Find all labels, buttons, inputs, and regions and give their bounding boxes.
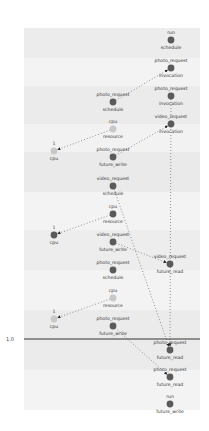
node-top-label: run (167, 30, 175, 35)
node-dot[interactable] (51, 232, 58, 239)
node-bottom-label: schedule (161, 45, 182, 50)
node-bottom-label: cpu (50, 324, 58, 329)
node-top-label: cpu (109, 288, 117, 293)
node-bottom-label: cpu (50, 156, 58, 161)
node-bottom-label: schedule (103, 275, 124, 280)
node-bottom-label: schedule (103, 107, 124, 112)
node-bottom-label: invocation (159, 73, 183, 78)
node-dot[interactable] (110, 211, 117, 218)
node-bottom-label: future_write (99, 247, 127, 252)
node-dot[interactable] (110, 154, 117, 161)
node-top-label: photo_request (153, 367, 186, 372)
node-top-label: video_request (97, 176, 129, 181)
node-dot[interactable] (110, 183, 117, 190)
node-dot[interactable] (168, 37, 175, 44)
node-bottom-label: future_write (156, 409, 184, 414)
node-bottom-label: future_read (157, 269, 184, 274)
node-bottom-label: invocation (159, 101, 183, 106)
node-dot[interactable] (110, 267, 117, 274)
node-bottom-label: resource (103, 303, 123, 308)
node-dot[interactable] (168, 65, 175, 72)
node-top-label: photo_request (96, 260, 129, 265)
node-top-label: cpu (109, 204, 117, 209)
node-bottom-label: schedule (103, 191, 124, 196)
node-bottom-label: future_write (99, 162, 127, 167)
node-bottom-label: invocation (159, 129, 183, 134)
node-dot[interactable] (110, 239, 117, 246)
axis-label: 1.0 (6, 336, 14, 342)
node-dot[interactable] (168, 121, 175, 128)
node-top-label: photo_request (154, 86, 187, 91)
node-dot[interactable] (110, 295, 117, 302)
node-bottom-label: future_read (157, 382, 184, 387)
node-top-label: 1 (53, 225, 56, 230)
node-top-label: photo_request (153, 340, 186, 345)
dependency-diagram: runschedulephoto_requestinvocationphoto_… (0, 0, 209, 431)
node-top-label: cpu (109, 119, 117, 124)
node-dot[interactable] (110, 323, 117, 330)
node-top-label: photo_request (96, 316, 129, 321)
node-dot[interactable] (110, 99, 117, 106)
node-top-label: photo_request (96, 147, 129, 152)
node-top-label: run (166, 394, 174, 399)
node-top-label: video_request (97, 232, 129, 237)
dependency-edge (113, 186, 169, 346)
node-top-label: photo_request (154, 58, 187, 63)
node-bottom-label: resource (103, 219, 123, 224)
node-top-label: video_request (154, 254, 186, 259)
node-dot[interactable] (167, 347, 174, 354)
node-dot[interactable] (167, 401, 174, 408)
node-dot[interactable] (168, 93, 175, 100)
node-top-label: photo_request (96, 92, 129, 97)
node-bottom-label: cpu (50, 240, 58, 245)
node-bottom-label: future_write (99, 331, 127, 336)
node-top-label: 1 (53, 141, 56, 146)
node-dot[interactable] (167, 374, 174, 381)
node-top-label: 1 (53, 309, 56, 314)
node-dot[interactable] (110, 126, 117, 133)
node-bottom-label: resource (103, 134, 123, 139)
node-dot[interactable] (51, 316, 58, 323)
node-dot[interactable] (167, 261, 174, 268)
node-dot[interactable] (51, 148, 58, 155)
node-top-label: video_request (155, 114, 187, 119)
node-bottom-label: future_read (157, 355, 184, 360)
